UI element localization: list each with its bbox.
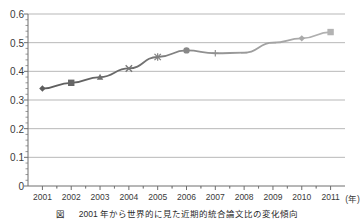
x-axis-tick-label: 2004 <box>119 192 138 202</box>
figure-caption: 図 2001 年から世界的に見た近期的統合論文比の変化傾向 <box>0 207 354 219</box>
x-axis-tick-label: 2009 <box>263 192 282 202</box>
x-axis-tick-label: 2007 <box>206 192 225 202</box>
x-axis-tick-label: 2002 <box>62 192 81 202</box>
x-axis-tick-label: 2001 <box>33 192 52 202</box>
x-axis-unit-label: (年) <box>345 192 360 204</box>
x-axis-tick-label: 2006 <box>177 192 196 202</box>
x-axis-tick-label: 2010 <box>292 192 311 202</box>
x-axis-tick-label: 2005 <box>148 192 167 202</box>
x-axis-tick-label: 2011 <box>321 192 339 202</box>
x-axis-tick-label: 2008 <box>235 192 254 202</box>
x-axis-tick-label: 2003 <box>91 192 110 202</box>
